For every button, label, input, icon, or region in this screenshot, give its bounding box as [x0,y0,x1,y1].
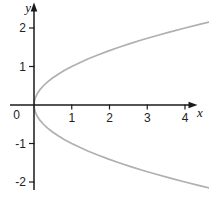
y-tick-label: -2 [15,175,26,189]
x-tick-label: 3 [144,111,151,125]
x-tick-label: 1 [68,111,75,125]
figure: 1234-2-1120xy [0,0,209,204]
x-tick-label: 4 [182,111,189,125]
y-tick-label: 1 [19,60,26,74]
curve-upper-branch [34,20,209,105]
y-axis-arrow-icon [31,3,38,12]
x-axis-label: x [196,105,203,120]
y-tick-label: -1 [15,137,26,151]
y-axis-label: y [23,0,31,15]
parabola-chart: 1234-2-1120xy [0,0,209,204]
x-tick-label: 2 [106,111,113,125]
y-tick-label: 2 [19,21,26,35]
origin-label: 0 [13,108,20,122]
